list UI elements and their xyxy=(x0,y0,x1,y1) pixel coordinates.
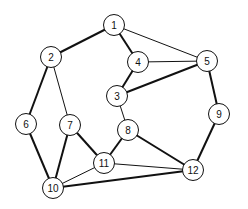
node-2: 2 xyxy=(40,46,62,68)
node-10: 10 xyxy=(42,177,64,199)
node-5: 5 xyxy=(196,50,218,72)
node-6: 6 xyxy=(15,113,37,135)
node-8: 8 xyxy=(117,119,139,141)
node-11: 11 xyxy=(93,152,115,174)
node-1: 1 xyxy=(103,14,125,36)
edge-10-12 xyxy=(53,170,193,188)
node-7: 7 xyxy=(59,114,81,136)
node-3: 3 xyxy=(106,85,128,107)
node-9: 9 xyxy=(208,103,230,125)
node-12: 12 xyxy=(182,159,204,181)
edge-11-12 xyxy=(104,163,193,170)
graph-diagram: 123456789101112 xyxy=(0,0,248,209)
graph-edges xyxy=(0,0,248,209)
node-4: 4 xyxy=(127,51,149,73)
